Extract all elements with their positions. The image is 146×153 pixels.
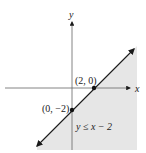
x-axis-label: x: [134, 83, 140, 94]
point-y-intercept: [70, 108, 74, 112]
point-label-x-intercept: (2, 0): [75, 75, 97, 87]
y-axis-label: y: [68, 9, 74, 20]
point-label-y-intercept: (0, −2): [42, 103, 69, 115]
inequality-graph: y x (2, 0) (0, −2) y ≤ x − 2: [0, 0, 146, 153]
point-x-intercept: [92, 86, 96, 90]
inequality-label: y ≤ x − 2: [75, 121, 112, 132]
